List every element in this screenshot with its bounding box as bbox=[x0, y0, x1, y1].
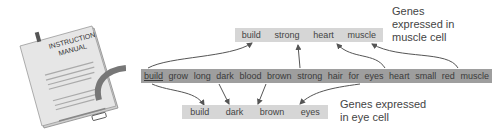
muscle-gene: build bbox=[242, 30, 261, 40]
eye-cell-label: Genes expressed in eye cell bbox=[340, 98, 480, 124]
eye-gene: dark bbox=[226, 107, 244, 117]
genome-word: dark bbox=[216, 71, 234, 81]
genome-word: hair bbox=[328, 71, 343, 81]
genome-word: long bbox=[194, 71, 211, 81]
muscle-gene: strong bbox=[275, 30, 300, 40]
muscle-gene: heart bbox=[313, 30, 334, 40]
genome-word: red bbox=[442, 71, 455, 81]
eye-label-line: Genes expressed bbox=[340, 98, 480, 111]
genome-word: heart bbox=[389, 71, 410, 81]
genome-word: eyes bbox=[365, 71, 384, 81]
genome-word: for bbox=[348, 71, 359, 81]
genome-word: blood bbox=[239, 71, 261, 81]
muscle-cell-label: Genes expressed in muscle cell bbox=[392, 5, 492, 44]
eye-gene: brown bbox=[260, 107, 285, 117]
muscle-label-line: Genes bbox=[392, 5, 492, 18]
eye-cell-genes-bar: build dark brown eyes bbox=[182, 105, 328, 119]
genome-word: build bbox=[144, 71, 163, 81]
muscle-label-line: expressed in bbox=[392, 18, 492, 31]
genome-word: muscle bbox=[460, 71, 489, 81]
genome-word: brown bbox=[267, 71, 292, 81]
eye-gene: eyes bbox=[301, 107, 320, 117]
eye-gene: build bbox=[190, 107, 209, 117]
genome-word: small bbox=[415, 71, 436, 81]
muscle-gene: muscle bbox=[348, 30, 377, 40]
muscle-label-line: muscle cell bbox=[392, 31, 492, 44]
genome-word: strong bbox=[297, 71, 322, 81]
eye-label-line: in eye cell bbox=[340, 111, 480, 124]
genome-bar: build grow long dark blood brown strong … bbox=[141, 69, 492, 83]
muscle-cell-genes-bar: build strong heart muscle bbox=[235, 28, 383, 42]
genome-word: grow bbox=[169, 71, 189, 81]
